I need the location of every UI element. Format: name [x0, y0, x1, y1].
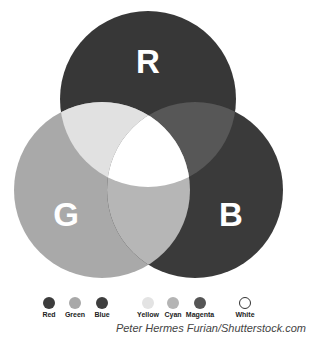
legend-label-yellow: Yellow: [137, 311, 159, 318]
legend-dot-white: [239, 297, 251, 309]
legend-dot-red: [43, 297, 55, 309]
legend-label-magenta: Magenta: [186, 311, 214, 318]
legend-dot-yellow: [142, 297, 154, 309]
image-credit: Peter Hermes Furian/Shutterstock.com: [116, 322, 306, 334]
label-g: G: [53, 196, 79, 233]
legend-dot-magenta: [194, 297, 206, 309]
label-b: B: [219, 196, 243, 233]
label-r: R: [136, 43, 160, 80]
legend-label-blue: Blue: [94, 311, 109, 318]
legend-label-white: White: [235, 311, 254, 318]
legend-label-red: Red: [42, 311, 55, 318]
legend-label-cyan: Cyan: [164, 311, 181, 318]
legend-label-green: Green: [65, 311, 85, 318]
legend-dot-green: [69, 297, 81, 309]
legend-dot-blue: [96, 297, 108, 309]
legend-dot-cyan: [167, 297, 179, 309]
venn-diagram: R G B: [0, 0, 310, 300]
